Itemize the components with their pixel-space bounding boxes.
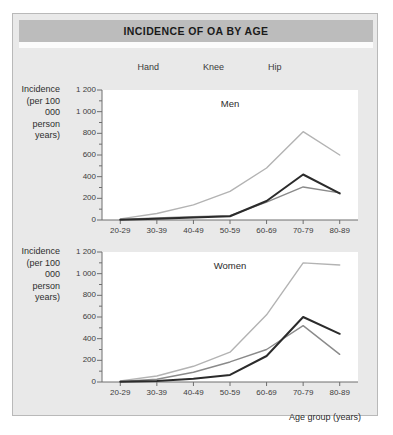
x-tick-label: 80-89	[320, 388, 360, 397]
x-tick-label: 40-49	[173, 388, 213, 397]
x-tick-label: 60-69	[247, 388, 287, 397]
x-tick-label: 20-29	[100, 226, 140, 235]
figure-title: INCIDENCE OF OA BY AGE	[124, 25, 269, 37]
legend-item-hip: Hip	[241, 62, 282, 72]
y-tick-label: 0	[60, 377, 96, 386]
legend-item-knee: Knee	[176, 62, 224, 72]
y-tick-label: 1 200	[60, 247, 96, 256]
y-tick-label: 600	[60, 150, 96, 159]
chart-women: Incidence (per 100 000 person years) Wom…	[13, 238, 379, 398]
x-tick-label: 30-39	[137, 226, 177, 235]
y-tick-label: 1 000	[60, 107, 96, 116]
y-tick-label: 0	[60, 215, 96, 224]
y-tick-label: 800	[60, 290, 96, 299]
x-tick-label: 30-39	[137, 388, 177, 397]
legend-label-knee: Knee	[203, 62, 224, 72]
subplot-title-women: Women	[206, 260, 254, 271]
x-tick-label: 70-79	[283, 226, 323, 235]
x-tick-label: 50-59	[210, 388, 250, 397]
title-divider	[19, 42, 373, 48]
y-tick-label: 800	[60, 128, 96, 137]
chart-men: Incidence (per 100 000 person years) Men…	[13, 76, 379, 234]
y-tick-label: 400	[60, 172, 96, 181]
legend-label-hand: Hand	[137, 62, 159, 72]
y-tick-label: 600	[60, 312, 96, 321]
y-tick-label: 200	[60, 193, 96, 202]
figure-root: INCIDENCE OF OA BY AGE Hand Knee Hip	[0, 0, 393, 435]
x-tick-label: 80-89	[320, 226, 360, 235]
y-tick-label: 1 000	[60, 269, 96, 278]
figure-panel: INCIDENCE OF OA BY AGE Hand Knee Hip	[12, 13, 378, 416]
figure-title-bar: INCIDENCE OF OA BY AGE	[19, 20, 373, 42]
chart-legend: Hand Knee Hip	[13, 62, 379, 72]
x-tick-label: 70-79	[283, 388, 323, 397]
x-tick-label: 60-69	[247, 226, 287, 235]
y-axis-title-men: Incidence (per 100 000 person years)	[14, 84, 60, 142]
x-tick-label: 20-29	[100, 388, 140, 397]
y-tick-label: 1 200	[60, 85, 96, 94]
legend-label-hip: Hip	[268, 62, 282, 72]
x-axis-title: Age group (years)	[289, 412, 361, 422]
subplot-title-men: Men	[206, 98, 254, 109]
y-axis-title-women: Incidence (per 100 000 person years)	[14, 246, 60, 304]
x-tick-label: 40-49	[173, 226, 213, 235]
y-tick-label: 200	[60, 355, 96, 364]
x-tick-label: 50-59	[210, 226, 250, 235]
y-tick-label: 400	[60, 334, 96, 343]
legend-item-hand: Hand	[110, 62, 159, 72]
